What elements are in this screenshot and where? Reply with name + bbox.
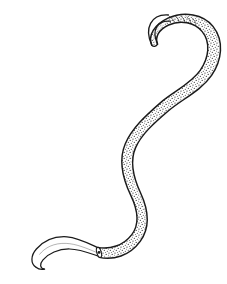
junction-dot	[98, 251, 101, 254]
figure-root: Nematode worm line illustration	[0, 0, 227, 284]
page-background	[0, 0, 227, 284]
nematode-illustration: Nematode worm line illustration	[0, 0, 227, 284]
